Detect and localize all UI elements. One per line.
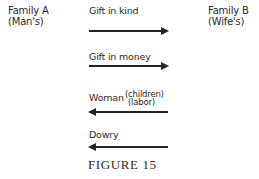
flow-label: Gift in kind xyxy=(89,6,138,16)
flow-label: Dowry xyxy=(89,130,118,140)
flow-sublabel-labor: (labor) xyxy=(128,98,155,106)
family-a-label: Family A xyxy=(8,5,49,16)
family-a-sublabel: (Man's) xyxy=(8,16,43,27)
arrow-right-icon xyxy=(89,65,167,67)
flow-label: Gift in money xyxy=(89,52,151,62)
figure-caption: FIGURE 15 xyxy=(88,157,157,173)
arrow-right-icon xyxy=(89,30,167,32)
flow-label: Woman xyxy=(89,93,124,103)
family-b-sublabel: (Wife's) xyxy=(208,16,244,27)
arrow-left-icon xyxy=(90,146,168,148)
arrow-left-icon xyxy=(90,111,168,113)
family-b-label: Family B xyxy=(208,5,249,16)
